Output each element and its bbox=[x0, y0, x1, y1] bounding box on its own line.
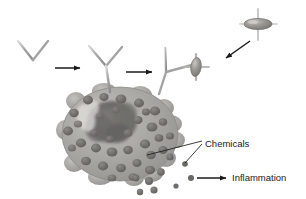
leader-granule bbox=[185, 144, 202, 163]
diagram-canvas: Chemicals Inflammation bbox=[0, 0, 306, 199]
mast-cell bbox=[56, 83, 185, 186]
released-granule bbox=[137, 189, 143, 195]
released-granule bbox=[173, 183, 178, 188]
allergen-free bbox=[240, 9, 277, 40]
allergy-diagram: Chemicals Inflammation bbox=[0, 0, 306, 199]
inflammation-label: Inflammation bbox=[232, 172, 286, 183]
released-granule bbox=[188, 175, 194, 181]
antibody-free bbox=[18, 41, 48, 82]
released-granule bbox=[182, 161, 188, 167]
released-granule bbox=[133, 175, 140, 182]
released-granule bbox=[157, 168, 165, 176]
chemicals-label: Chemicals bbox=[205, 138, 250, 149]
released-granule bbox=[150, 186, 157, 193]
released-granule bbox=[145, 177, 153, 185]
released-granule bbox=[166, 153, 173, 160]
arrow-allergen bbox=[226, 41, 250, 58]
allergen-bound bbox=[184, 54, 209, 80]
